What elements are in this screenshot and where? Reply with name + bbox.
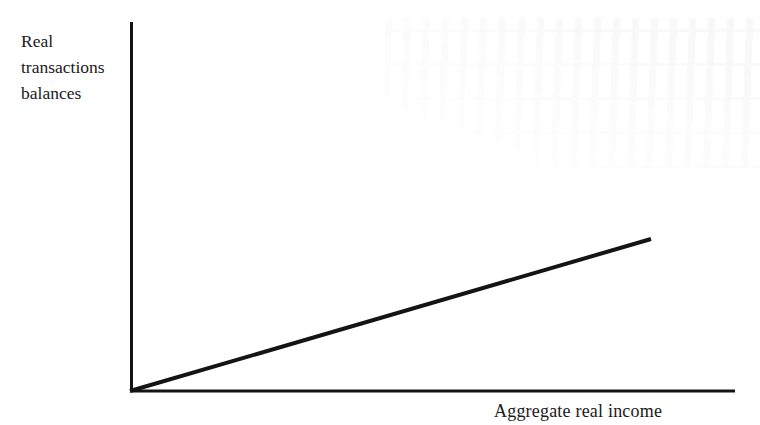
figure-container: Real transactions balances Aggregate rea… [0, 0, 760, 425]
y-axis-label: Real transactions balances [21, 28, 105, 106]
x-axis-label: Aggregate real income [494, 400, 662, 422]
plot-area [0, 0, 760, 425]
transactions-demand-line [130, 239, 651, 391]
